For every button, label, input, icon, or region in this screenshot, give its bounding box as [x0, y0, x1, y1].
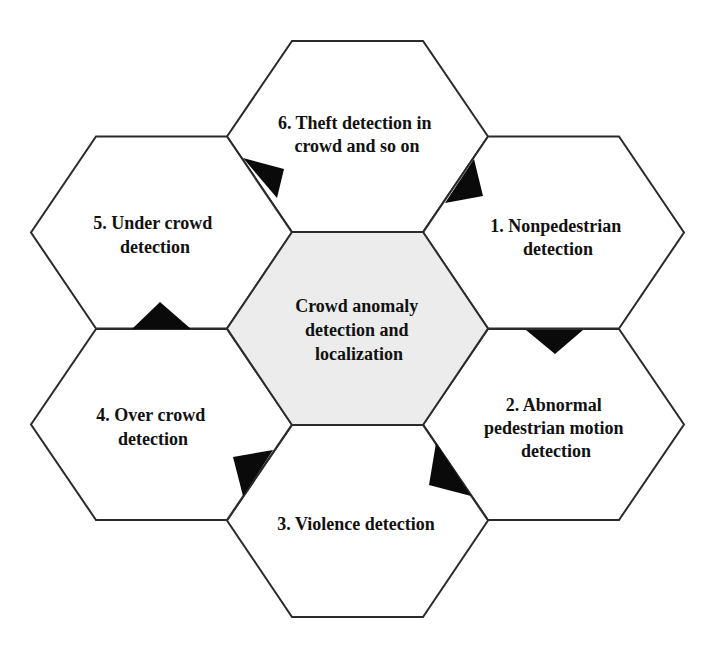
hex-node-3-label: 3. Violence detection: [277, 514, 434, 534]
hexagon-diagram: 6. Theft detection in crowd and so on 1.…: [0, 0, 716, 647]
